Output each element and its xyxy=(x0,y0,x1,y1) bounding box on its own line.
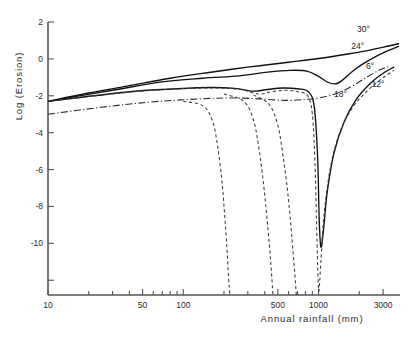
curve-label-6: 6° xyxy=(366,61,374,71)
y-tick-label: -10 xyxy=(31,238,44,248)
curve-12 xyxy=(48,70,394,291)
x-tick-label: 100 xyxy=(176,300,190,310)
curve-plunge-left-2 xyxy=(224,94,273,295)
y-tick-label: 0 xyxy=(38,54,43,64)
chart-canvas: 10501005001000300020-2-4-6-8-10 30°24°18… xyxy=(0,0,412,337)
x-tick-label: 50 xyxy=(138,300,148,310)
curve-label-24: 24° xyxy=(351,41,364,51)
x-tick-label: 500 xyxy=(271,300,285,310)
curve-label-18: 18° xyxy=(334,89,347,99)
y-tick-label: -2 xyxy=(35,91,43,101)
x-tick-label: 3000 xyxy=(374,300,393,310)
y-tick-label: -4 xyxy=(35,128,43,138)
axes-group xyxy=(48,22,400,295)
y-tick-label: -6 xyxy=(35,165,43,175)
curve-label-30: 30° xyxy=(357,24,370,34)
erosion-rainfall-chart: 10501005001000300020-2-4-6-8-10 30°24°18… xyxy=(0,0,412,337)
curve-plunge-left-1 xyxy=(183,101,230,295)
tick-labels-group: 10501005001000300020-2-4-6-8-10 xyxy=(31,17,393,310)
curve-plunge-left-3 xyxy=(253,95,296,295)
x-axis-title: Annual rainfall (mm) xyxy=(261,313,364,324)
data-curves-group xyxy=(48,44,399,295)
y-tick-label: -8 xyxy=(35,201,43,211)
curve-label-12: 12° xyxy=(372,79,385,89)
x-tick-label: 1000 xyxy=(309,300,328,310)
y-axis-title: Log (Erosion) xyxy=(13,52,24,121)
y-tick-label: 2 xyxy=(38,17,43,27)
curve-labels-group: 30°24°18°12°6° xyxy=(334,24,384,99)
x-tick-label: 10 xyxy=(43,300,53,310)
